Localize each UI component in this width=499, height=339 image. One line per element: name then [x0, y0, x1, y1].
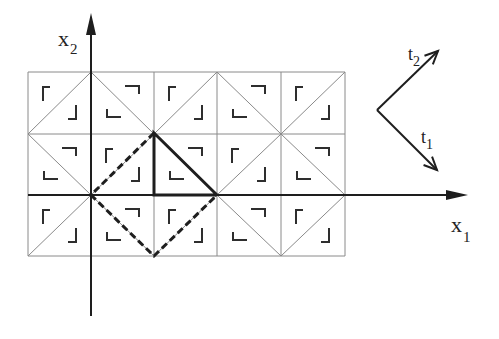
cell-diagonal [28, 195, 91, 256]
bracket-bottom-right-icon [68, 105, 76, 119]
bracket-top-left-icon [169, 210, 176, 224]
bracket-bottom-right-icon [321, 105, 329, 119]
cell-diagonal [91, 72, 154, 134]
x2-arrow-icon [86, 13, 96, 35]
bracket-bottom-right-icon [257, 167, 265, 181]
bracket-top-right-icon [188, 148, 202, 156]
bracket-top-left-icon [232, 149, 239, 163]
lattice-diagram: x2 x1 t2 t1 [0, 0, 499, 339]
bracket-top-right-icon [251, 209, 265, 217]
cell-diagonal [28, 134, 91, 195]
bracket-top-right-icon [125, 86, 139, 94]
cell-diagonal [281, 195, 345, 256]
basis-vectors [377, 51, 438, 170]
x1-label: x1 [451, 212, 471, 245]
t1-label: t1 [421, 127, 433, 152]
bracket-top-right-icon [62, 148, 76, 156]
x2-label: x2 [58, 26, 78, 57]
bracket-bottom-right-icon [68, 228, 76, 242]
cell-diagonal [154, 72, 217, 134]
cell-diagonal [217, 72, 281, 134]
bracket-bottom-left-icon [233, 109, 247, 117]
cell-diagonal [217, 134, 281, 195]
bracket-bottom-left-icon [233, 232, 247, 240]
bracket-bottom-left-icon [107, 109, 121, 117]
bracket-bottom-right-icon [131, 167, 139, 181]
bracket-bottom-left-icon [107, 232, 121, 240]
bracket-bottom-right-icon [194, 228, 202, 242]
cell-diagonal [217, 195, 281, 256]
bracket-top-left-icon [106, 149, 113, 163]
bracket-top-left-icon [169, 87, 176, 101]
cell-diagonal [281, 134, 345, 195]
bracket-top-right-icon [315, 148, 329, 156]
bracket-top-left-icon [296, 210, 303, 224]
bracket-bottom-left-icon [297, 171, 311, 179]
bracket-bottom-right-icon [194, 105, 202, 119]
bracket-top-right-icon [125, 209, 139, 217]
x1-arrow-icon [446, 190, 468, 200]
bracket-bottom-right-icon [321, 228, 329, 242]
bracket-top-left-icon [43, 87, 50, 101]
bracket-top-right-icon [251, 86, 265, 94]
bracket-bottom-left-icon [44, 171, 58, 179]
bracket-top-left-icon [296, 87, 303, 101]
cell-diagonal [281, 72, 345, 134]
cell-diagonal [28, 72, 91, 134]
fundamental-triangle [154, 133, 217, 195]
t2-label: t2 [408, 44, 420, 69]
bracket-top-left-icon [43, 210, 50, 224]
bracket-bottom-left-icon [170, 171, 184, 179]
